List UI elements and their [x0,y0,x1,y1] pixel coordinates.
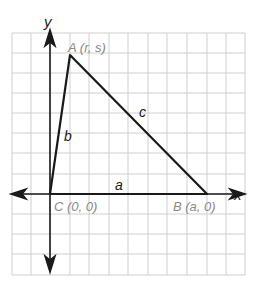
side-c-label: c [139,104,146,120]
coordinate-plane: x y A (r, s) B (a, 0) C (0, 0) a b c [0,0,270,290]
y-axis [45,30,55,272]
y-axis-label: y [43,13,53,30]
grid [12,33,245,275]
side-b-label: b [64,128,72,144]
vertex-a-label: A (r, s) [67,40,106,55]
x-axis-label: x [233,186,242,203]
vertex-b-label: B (a, 0) [173,199,216,214]
side-a-label: a [115,177,123,193]
vertex-c-label: C (0, 0) [54,199,97,214]
